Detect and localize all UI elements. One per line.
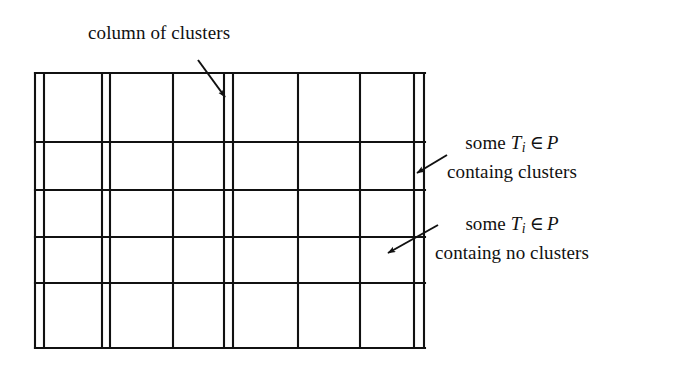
math-element-of-icon-1: ∈ <box>527 132 547 153</box>
math-variable-T-2: T <box>511 213 522 234</box>
math-element-of-icon-2: ∈ <box>527 213 547 234</box>
label-containing-no-clusters-line2: containg no clusters <box>435 241 589 265</box>
arrow-to-cluster-column <box>198 60 225 97</box>
math-variable-T-1: T <box>511 132 522 153</box>
label-containing-no-clusters: some Ti∈P containg no clusters <box>435 212 589 265</box>
grid-diagram <box>0 0 681 371</box>
label-some-prefix-2: some <box>465 213 510 234</box>
math-subscript-i-2: i <box>521 221 526 236</box>
grid-horizontal-lines <box>35 73 425 348</box>
grid-vertical-lines <box>35 73 424 348</box>
label-containing-clusters-line1: some Ti∈P <box>447 131 577 160</box>
figure-container: column of clusters some Ti∈P containg cl… <box>0 0 681 371</box>
math-subscript-i-1: i <box>521 140 526 155</box>
label-column-of-clusters: column of clusters <box>88 22 230 44</box>
math-set-P-2: P <box>547 213 559 234</box>
annotation-arrows <box>198 60 447 253</box>
label-some-prefix-1: some <box>465 132 510 153</box>
label-containing-clusters-line2: containg clusters <box>447 160 577 184</box>
label-containing-no-clusters-line1: some Ti∈P <box>435 212 589 241</box>
arrow-to-containing-clusters <box>417 155 447 173</box>
label-containing-clusters: some Ti∈P containg clusters <box>447 131 577 184</box>
math-set-P-1: P <box>547 132 559 153</box>
